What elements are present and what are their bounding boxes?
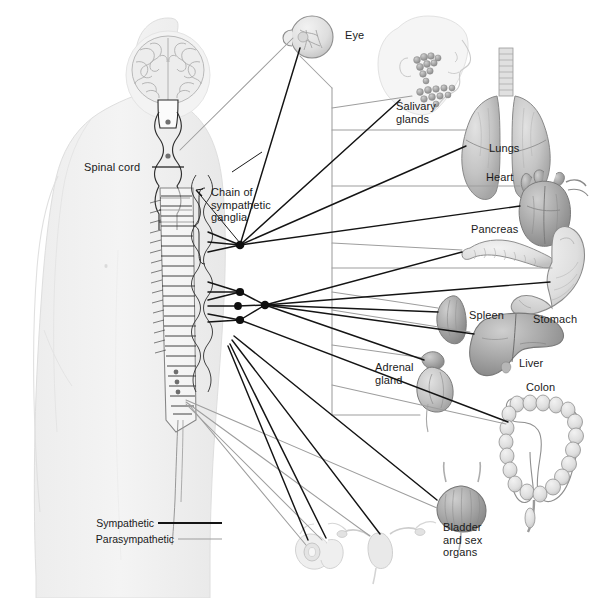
label-adrenal-gland: Adrenal gland [375, 361, 414, 386]
label-liver: Liver [519, 357, 543, 370]
label-eye: Eye [345, 29, 364, 42]
label-lungs: Lungs [489, 142, 519, 155]
label-chain-of-ganglia: Chain of sympathetic ganglia [211, 186, 271, 224]
label-spinal-cord: Spinal cord [84, 161, 140, 174]
label-colon: Colon [526, 381, 555, 394]
label-heart: Heart [486, 171, 513, 184]
label-bladder-sex-organs: Bladder and sex organs [443, 521, 482, 559]
label-spleen: Spleen [469, 309, 504, 322]
label-pancreas: Pancreas [471, 223, 518, 236]
diagram-canvas: Spinal cord Chain of sympathetic ganglia… [0, 0, 595, 598]
label-salivary-glands: Salivary glands [396, 100, 436, 125]
label-stomach: Stomach [533, 313, 577, 326]
legend-label-parasympathetic: Parasympathetic [46, 533, 174, 545]
legend-label-sympathetic: Sympathetic [46, 517, 154, 529]
legend-lines [0, 0, 595, 598]
